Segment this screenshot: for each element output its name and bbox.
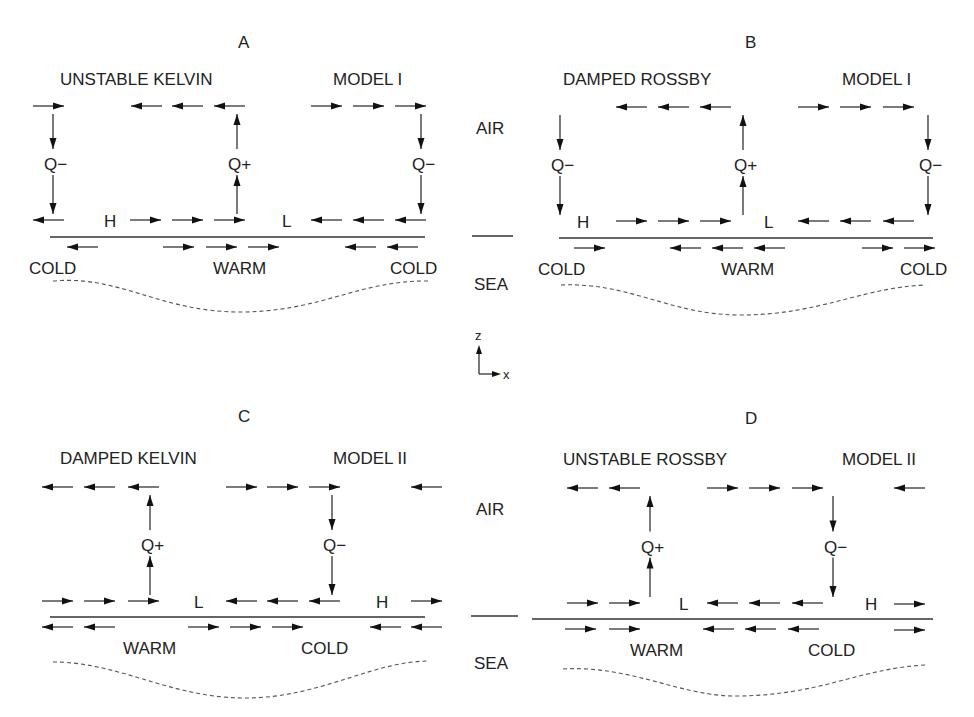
heating-label: Q+ — [141, 536, 164, 555]
high-pressure-label: H — [577, 213, 589, 232]
cooling-label: Q− — [824, 538, 847, 557]
vertical-motion-down-icon — [557, 176, 564, 215]
thermocline-curve — [53, 280, 428, 312]
upper-wind-arrow-right-icon — [883, 104, 914, 111]
high-pressure-label: H — [104, 212, 116, 231]
vertical-motion-down-icon — [418, 175, 425, 214]
vertical-motion-up-icon — [234, 175, 241, 214]
high-pressure-label: H — [865, 595, 877, 614]
ocean-current-arrow-right-icon — [188, 624, 219, 631]
ocean-current-arrow-left-icon — [42, 624, 73, 631]
upper-wind-arrow-right-icon — [395, 103, 426, 110]
air-label-top: AIR — [476, 119, 504, 138]
ocean-current-arrow-left-icon — [670, 245, 701, 252]
upper-wind-arrow-right-icon — [226, 484, 257, 491]
surface-wind-arrow-right-icon — [411, 598, 442, 605]
surface-wind-arrow-right-icon — [567, 600, 598, 607]
x-axis-label: x — [503, 367, 510, 382]
ocean-current-arrow-left-icon — [703, 626, 734, 633]
model-label: MODEL I — [842, 70, 911, 89]
panel-a: AUNSTABLE KELVINMODEL IQ−Q+Q−HLCOLDWARMC… — [29, 33, 437, 312]
heating-label: Q+ — [641, 538, 664, 557]
vertical-motion-up-icon — [740, 176, 747, 215]
surface-wind-arrow-right-icon — [42, 598, 73, 605]
upper-wind-arrow-right-icon — [792, 485, 823, 492]
panel-title: DAMPED KELVIN — [60, 449, 197, 468]
center-legend: AIR SEA z x AIR SEA — [471, 119, 518, 673]
upper-wind-arrow-left-icon — [411, 484, 442, 491]
vertical-motion-down-icon — [329, 556, 336, 595]
low-pressure-label: L — [764, 213, 773, 232]
upper-wind-arrow-left-icon — [658, 104, 689, 111]
ocean-current-arrow-right-icon — [574, 245, 605, 252]
ocean-current-arrow-left-icon — [387, 244, 418, 251]
surface-wind-arrow-right-icon — [84, 598, 115, 605]
z-arrow-head — [476, 345, 482, 354]
warm-sst-label: WARM — [721, 260, 774, 279]
ocean-current-arrow-right-icon — [206, 244, 237, 251]
cooling-label: Q− — [44, 155, 67, 174]
surface-wind-arrow-right-icon — [700, 218, 731, 225]
vertical-motion-down-icon — [925, 115, 932, 150]
upper-wind-arrow-left-icon — [131, 103, 162, 110]
ocean-current-arrow-left-icon — [754, 245, 785, 252]
surface-wind-arrow-right-icon — [214, 217, 245, 224]
surface-wind-arrow-left-icon — [395, 217, 426, 224]
surface-wind-arrow-left-icon — [707, 600, 738, 607]
thermocline-curve — [53, 661, 428, 698]
ocean-atmosphere-coupling-diagram: AUNSTABLE KELVINMODEL IQ−Q+Q−HLCOLDWARMC… — [0, 0, 974, 717]
surface-wind-arrow-left-icon — [798, 218, 829, 225]
ocean-current-arrow-right-icon — [862, 245, 893, 252]
upper-wind-arrow-right-icon — [840, 104, 871, 111]
surface-wind-arrow-left-icon — [309, 598, 340, 605]
axes-icon: z x — [475, 328, 510, 382]
ocean-current-arrow-right-icon — [894, 627, 925, 634]
ocean-current-arrow-left-icon — [745, 626, 776, 633]
cold-sst-label: COLD — [808, 641, 855, 660]
heating-label: Q+ — [228, 155, 251, 174]
vertical-motion-up-icon — [234, 114, 241, 149]
thermocline-curve — [563, 665, 926, 696]
upper-wind-arrow-left-icon — [609, 485, 640, 492]
upper-wind-arrow-left-icon — [128, 484, 159, 491]
surface-wind-arrow-left-icon — [840, 218, 871, 225]
ocean-current-arrow-left-icon — [67, 244, 98, 251]
panel-c: CDAMPED KELVINMODEL IIQ+Q−LHWARMCOLD — [42, 407, 442, 698]
vertical-motion-down-icon — [557, 115, 564, 150]
model-label: MODEL II — [333, 449, 407, 468]
upper-wind-arrow-right-icon — [707, 485, 738, 492]
surface-wind-arrow-left-icon — [883, 218, 914, 225]
upper-wind-arrow-right-icon — [33, 103, 64, 110]
cooling-label: Q− — [919, 156, 942, 175]
low-pressure-label: L — [282, 212, 291, 231]
surface-wind-arrow-right-icon — [894, 601, 925, 608]
upper-wind-arrow-right-icon — [309, 484, 340, 491]
low-pressure-label: L — [194, 593, 203, 612]
vertical-motion-up-icon — [147, 495, 154, 530]
air-label-bottom: AIR — [476, 500, 504, 519]
surface-wind-arrow-left-icon — [749, 600, 780, 607]
vertical-motion-down-icon — [329, 495, 336, 530]
upper-wind-arrow-right-icon — [311, 103, 342, 110]
ocean-current-arrow-left-icon — [411, 624, 442, 631]
upper-wind-arrow-left-icon — [214, 103, 245, 110]
cold-sst-label: COLD — [538, 260, 585, 279]
surface-wind-arrow-right-icon — [130, 217, 161, 224]
vertical-motion-up-icon — [647, 558, 654, 598]
panel-letter: C — [238, 407, 250, 426]
surface-wind-arrow-left-icon — [33, 217, 64, 224]
high-pressure-label: H — [376, 593, 388, 612]
upper-wind-arrow-left-icon — [894, 485, 925, 492]
upper-wind-arrow-right-icon — [798, 104, 829, 111]
ocean-current-arrow-left-icon — [370, 624, 401, 631]
vertical-motion-up-icon — [740, 115, 747, 150]
panel-title: UNSTABLE ROSSBY — [563, 450, 727, 469]
panel-letter: D — [745, 409, 757, 428]
sea-label-top: SEA — [474, 275, 509, 294]
x-arrow-head — [492, 371, 501, 377]
panel-b: BDAMPED ROSSBYMODEL IQ−Q+Q−HLCOLDWARMCOL… — [538, 33, 947, 315]
ocean-current-arrow-left-icon — [788, 626, 819, 633]
surface-wind-arrow-left-icon — [311, 217, 342, 224]
upper-wind-arrow-left-icon — [700, 104, 731, 111]
vertical-motion-up-icon — [147, 556, 154, 595]
